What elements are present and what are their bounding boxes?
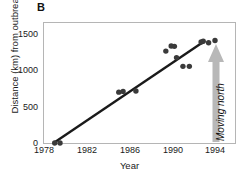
axes-frame bbox=[44, 23, 236, 144]
data-point bbox=[212, 38, 217, 43]
plot-area bbox=[0, 0, 241, 176]
data-point bbox=[187, 64, 192, 69]
data-point bbox=[163, 48, 168, 53]
data-point bbox=[120, 89, 125, 94]
data-point bbox=[180, 64, 185, 69]
data-point bbox=[201, 39, 206, 44]
data-point bbox=[174, 55, 179, 60]
data-point bbox=[52, 140, 57, 145]
data-point bbox=[206, 40, 211, 45]
data-point bbox=[172, 44, 177, 49]
data-point bbox=[57, 140, 62, 145]
data-point bbox=[133, 88, 138, 93]
figure-panel-b: B Distance (km) from outbreak Year 1500 … bbox=[0, 0, 241, 176]
moving-north-label: Moving north bbox=[215, 83, 226, 141]
